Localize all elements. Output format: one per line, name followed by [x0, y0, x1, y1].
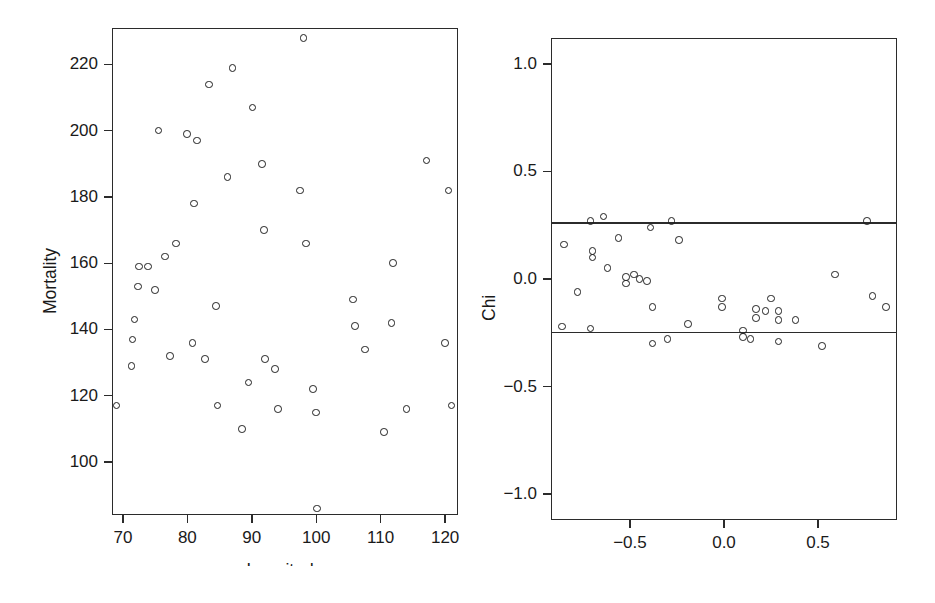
- figure-scatterplot-pair: 100120140160180200220708090100110120 Lon…: [0, 0, 935, 603]
- x-tick-label: 100: [276, 529, 356, 546]
- y-tick-mark: [104, 329, 112, 330]
- y-tick-label: 180: [42, 188, 98, 205]
- y-tick-label: 140: [42, 320, 98, 337]
- x-tick-mark: [187, 515, 188, 523]
- y-tick-label: 0.5: [481, 162, 537, 179]
- x-tick-label: 0.5: [778, 534, 858, 551]
- plot-area-right: [551, 38, 897, 520]
- x-tick-label: 110: [341, 529, 421, 546]
- page-margin: [0, 566, 935, 603]
- y-tick-mark: [104, 130, 112, 131]
- panel-chi-vs-lambda: −1.0−0.50.00.51.0−0.50.00.5 lambda Chi: [470, 0, 935, 580]
- y-tick-label: 220: [42, 55, 98, 72]
- y-tick-label: 120: [42, 387, 98, 404]
- x-tick-mark: [629, 520, 630, 528]
- y-tick-mark: [543, 278, 551, 279]
- y-tick-label: 1.0: [481, 55, 537, 72]
- plot-area-left: [112, 28, 458, 515]
- x-tick-mark: [251, 515, 252, 523]
- y-tick-label: −1.0: [481, 485, 537, 502]
- y-tick-label: −0.5: [481, 378, 537, 395]
- y-tick-mark: [543, 386, 551, 387]
- y-tick-mark: [104, 461, 112, 462]
- y-tick-label: 200: [42, 122, 98, 139]
- x-tick-mark: [316, 515, 317, 523]
- y-tick-mark: [543, 171, 551, 172]
- y-axis-title-chi: Chi: [479, 295, 500, 321]
- y-axis-title-mortality: Mortality: [40, 247, 61, 313]
- y-tick-mark: [104, 395, 112, 396]
- panel-mortality-vs-longitude: 100120140160180200220708090100110120 Lon…: [0, 0, 470, 580]
- x-tick-mark: [817, 520, 818, 528]
- y-tick-mark: [104, 196, 112, 197]
- x-tick-mark: [444, 515, 445, 523]
- x-tick-label: 80: [147, 529, 227, 546]
- y-tick-mark: [104, 263, 112, 264]
- x-tick-mark: [723, 520, 724, 528]
- y-tick-mark: [543, 493, 551, 494]
- x-tick-label: 70: [83, 529, 163, 546]
- y-tick-mark: [104, 64, 112, 65]
- x-tick-label: 90: [212, 529, 292, 546]
- x-tick-label: 0.0: [684, 534, 764, 551]
- x-tick-label: −0.5: [590, 534, 670, 551]
- x-tick-mark: [380, 515, 381, 523]
- y-tick-label: 0.0: [481, 270, 537, 287]
- y-tick-mark: [543, 63, 551, 64]
- x-tick-mark: [122, 515, 123, 523]
- y-tick-label: 100: [42, 453, 98, 470]
